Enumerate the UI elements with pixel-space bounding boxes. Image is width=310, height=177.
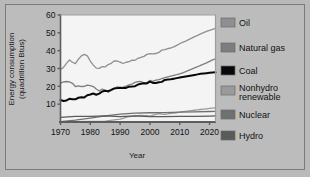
legend-swatch-oil[interactable] [221,18,235,27]
y-tick-label: 40 [46,46,56,56]
y-axis-title-line2: (quadrillion Btus) [17,39,26,99]
legend-swatch-nuclear[interactable] [221,110,235,119]
x-tick-label: 1970 [51,127,70,137]
chart-legend: OilNatural gasCoalNonhydrorenewableNucle… [221,18,286,141]
chart-canvas: 102030405060 197019801990200020102020 Ye… [0,0,310,177]
y-tick-label: 30 [46,64,56,74]
x-tick-label: 2000 [140,127,159,137]
legend-swatch-nonhydro[interactable] [221,86,235,95]
y-tick-label: 10 [46,99,56,109]
x-tick-label: 1990 [111,127,130,137]
legend-label-natural-gas[interactable]: Natural gas [239,43,286,53]
x-tick-label-group: 197019801990200020102020 [51,127,219,137]
legend-swatch-coal[interactable] [221,66,235,75]
x-tick-label: 1980 [81,127,100,137]
figure-container: 102030405060 197019801990200020102020 Ye… [0,0,310,177]
x-tick-label: 2010 [170,127,189,137]
legend-label-nuclear[interactable]: Nuclear [239,110,270,120]
legend-label-coal[interactable]: Coal [239,66,258,76]
legend-swatch-natural-gas[interactable] [221,43,235,52]
y-tick-label: 20 [46,82,56,92]
y-tick-label: 60 [46,10,56,20]
y-tick-label: 50 [46,28,56,38]
legend-swatch-hydro[interactable] [221,131,235,140]
x-tick-label: 2020 [200,127,219,137]
x-axis-title: Year [129,151,146,160]
legend-label-renewable[interactable]: renewable [239,92,281,102]
legend-label-hydro[interactable]: Hydro [239,131,263,141]
legend-label-oil[interactable]: Oil [239,18,250,28]
y-axis-title-line1: Energy consumption [7,33,16,106]
y-tick-label-group: 102030405060 [46,10,56,109]
